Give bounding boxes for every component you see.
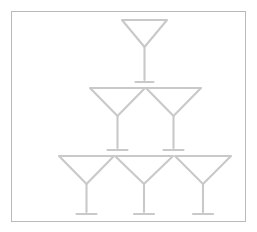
glass-2-1 <box>90 88 145 150</box>
glass-bowl <box>175 156 231 184</box>
glass-bowl <box>59 156 114 184</box>
glass-bowl <box>122 20 167 47</box>
glass-pyramid-illustration <box>0 0 257 232</box>
glass-2-2 <box>146 88 201 150</box>
screenshot-canvas <box>0 0 257 232</box>
glass-1-1 <box>122 20 167 82</box>
glass-3-1 <box>59 156 114 214</box>
glass-layer <box>59 20 231 214</box>
glass-3-3 <box>175 156 231 214</box>
glass-bowl <box>115 156 173 184</box>
glass-bowl <box>146 88 201 116</box>
glass-3-2 <box>115 156 173 214</box>
glass-bowl <box>90 88 145 116</box>
